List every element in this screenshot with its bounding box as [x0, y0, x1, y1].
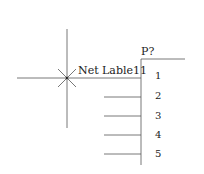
component-designator[interactable]: P? — [141, 46, 154, 57]
pin-number-1: 1 — [155, 71, 161, 81]
schematic-canvas[interactable] — [0, 0, 204, 174]
crosshair-cursor-icon — [17, 29, 76, 128]
pin-number-2: 2 — [155, 91, 161, 101]
component-body[interactable] — [141, 59, 185, 165]
net-label[interactable]: Net Lable11 — [78, 65, 147, 76]
pin-number-5: 5 — [155, 149, 161, 159]
pin-number-3: 3 — [155, 111, 161, 121]
pin-number-4: 4 — [155, 130, 161, 140]
component-pins[interactable] — [104, 97, 141, 154]
